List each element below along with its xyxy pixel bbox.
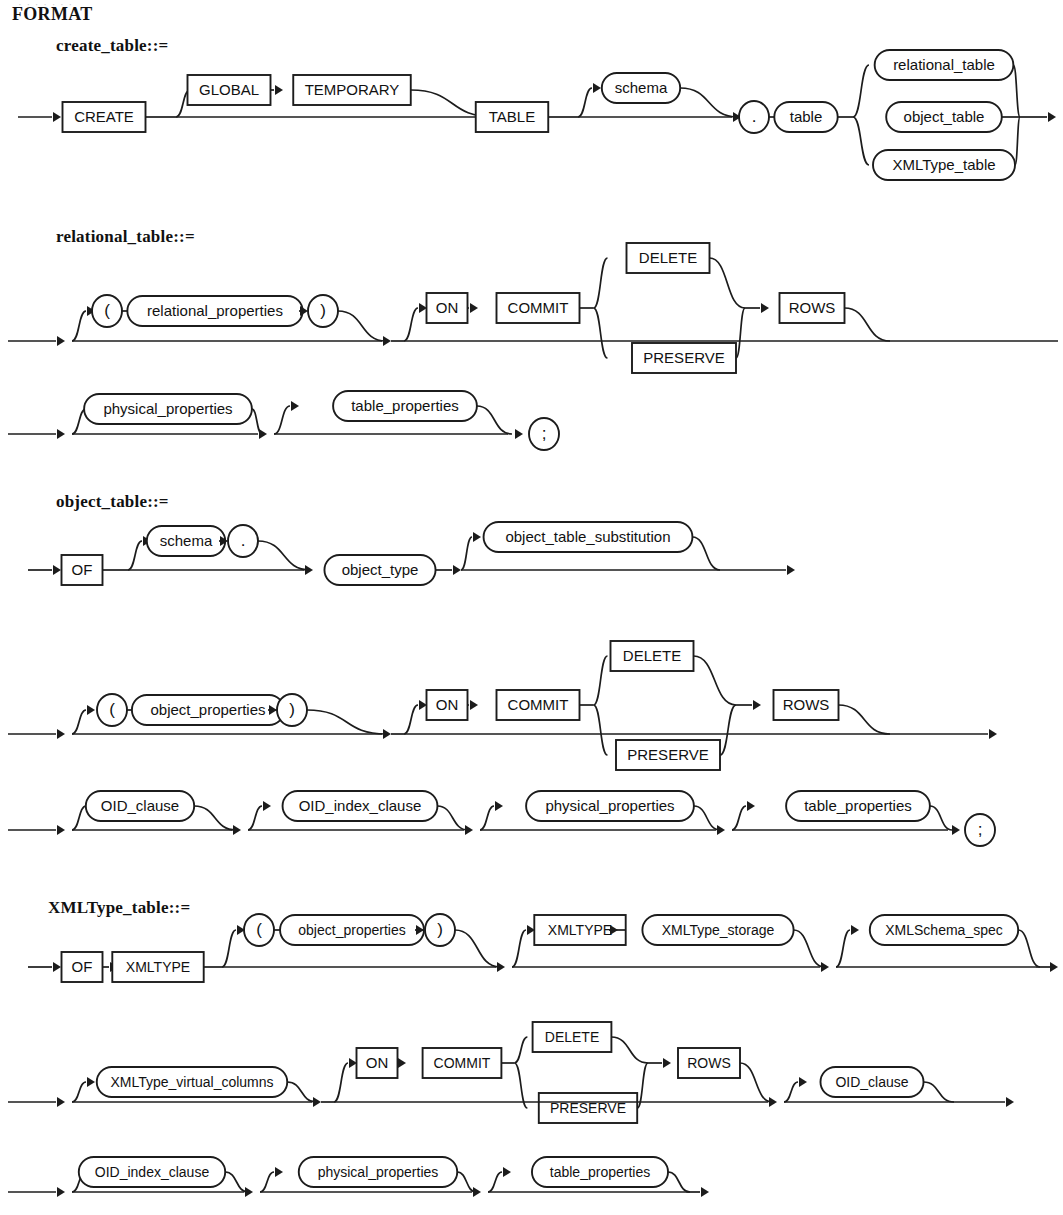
arrow-head-icon	[57, 336, 65, 346]
punctuation-label: ;	[978, 820, 983, 839]
arrow-head-icon	[383, 729, 391, 739]
arrow-head-icon	[245, 1187, 253, 1197]
nonterminal-label: relational_properties	[147, 302, 283, 319]
terminal-label: TABLE	[489, 108, 535, 125]
arrow-head-icon	[503, 1167, 511, 1177]
xml2-hook-up-on	[334, 1063, 348, 1102]
obj2-join-preserve	[720, 705, 736, 755]
terminal-label: DELETE	[623, 647, 681, 664]
nonterminal-label: relational_table	[893, 56, 995, 73]
obj2-join-delete	[694, 656, 737, 705]
obj-hook-down-subst	[692, 537, 720, 570]
arrow-head-icon	[263, 801, 271, 811]
arrow-head-icon	[300, 306, 308, 316]
xml2-join-delete	[611, 1037, 648, 1063]
nonterminal-label: XMLType_table	[892, 156, 995, 173]
arrow-head-icon	[53, 962, 61, 972]
terminal-label: ON	[436, 299, 459, 316]
terminal-label: COMMIT	[508, 696, 569, 713]
arrow-head-icon	[57, 429, 65, 439]
arrow-head-icon	[799, 1077, 807, 1087]
nonterminal-label: object_table_substitution	[505, 528, 670, 545]
rel2-node-semicolon: ;	[529, 418, 559, 450]
rel-node-open-paren: (	[92, 295, 122, 327]
xml2-node-rows: ROWS	[678, 1048, 740, 1078]
obj2-node-close-paren: )	[277, 694, 307, 726]
obj3-node-physical-properties: physical_properties	[526, 791, 694, 821]
arrow-head-icon	[495, 801, 503, 811]
obj3-hook-up-table	[732, 806, 746, 830]
terminal-label: COMMIT	[508, 299, 569, 316]
xml3-hook-down-oidix	[225, 1172, 248, 1192]
obj-hook-up-schema	[128, 541, 142, 570]
nonterminal-label: physical_properties	[103, 400, 232, 417]
arrow-head-icon	[747, 801, 755, 811]
rel-hook-up-delete	[594, 258, 608, 308]
arrow-head-icon	[473, 1187, 481, 1197]
obj2-node-open-paren: (	[97, 694, 127, 726]
xml1-hook-up-storage	[512, 930, 526, 967]
obj3-hook-up-physical	[480, 806, 494, 830]
rel-hook-down-paren	[338, 311, 386, 341]
terminal-label: GLOBAL	[199, 81, 259, 98]
rel2-node-table-properties: table_properties	[333, 391, 477, 421]
rel-node-close-paren: )	[308, 295, 338, 327]
arrow-head-icon	[821, 962, 829, 972]
terminal-label: ROWS	[783, 696, 830, 713]
xml2-hook-down-virtualcols	[287, 1082, 316, 1102]
wire-join-relational	[1013, 65, 1020, 117]
arrow-head-icon	[470, 700, 478, 710]
syntax-diagram-page: · · · · · · · FORMAT create_table::= rel…	[0, 0, 1063, 1215]
arrow-head-icon	[53, 112, 61, 122]
arrow-head-icon	[398, 1058, 406, 1068]
terminal-label: DELETE	[545, 1029, 599, 1045]
obj2-node-delete: DELETE	[611, 641, 694, 671]
rel-hook-up-paren	[72, 311, 86, 341]
xml3-node-physical-properties: physical_properties	[299, 1157, 457, 1187]
obj-hook-up-subst	[461, 537, 472, 570]
arrow-head-icon	[1006, 1097, 1014, 1107]
nonterminal-label: table	[790, 108, 823, 125]
obj2-hook-down-paren	[307, 710, 386, 734]
rel2-hook-down-table	[477, 406, 512, 434]
nonterminal-label: OID_clause	[835, 1074, 908, 1090]
nonterminal-label: schema	[615, 79, 668, 96]
obj2-hook-up-paren	[72, 710, 86, 734]
arrow-head-icon	[233, 825, 241, 835]
arrow-head-icon	[701, 1187, 709, 1197]
railroad-diagram-canvas: CREATEGLOBALTEMPORARYTABLEschema.tablere…	[0, 0, 1063, 1215]
arrow-head-icon	[989, 729, 997, 739]
xml3-hook-up-table	[488, 1172, 502, 1192]
arrow-head-icon	[259, 429, 267, 439]
xml1-node-close-paren: )	[425, 914, 455, 946]
rel-node-relational-properties: relational_properties	[127, 296, 302, 326]
obj-node-object-type: object_type	[324, 555, 435, 585]
arrow-head-icon	[663, 1058, 671, 1068]
terminal-label: DELETE	[639, 249, 697, 266]
nonterminal-label: physical_properties	[545, 797, 674, 814]
xml3-node-oid-index-clause: OID_index_clause	[79, 1157, 225, 1187]
node-temporary: TEMPORARY	[293, 75, 411, 105]
obj3-hook-down-table	[930, 806, 952, 830]
arrow-head-icon	[787, 565, 795, 575]
obj-node-dot: .	[228, 525, 258, 557]
arrow-head-icon	[57, 729, 65, 739]
xml1-hook-down-schemaspec	[1018, 930, 1040, 967]
xml2-hook-up-delete	[514, 1037, 527, 1063]
obj-node-of: OF	[62, 555, 103, 585]
obj3-hook-down-oid	[194, 806, 236, 830]
punctuation-label: (	[109, 700, 115, 719]
terminal-label: OF	[72, 561, 93, 578]
nonterminal-label: OID_clause	[101, 797, 179, 814]
wire-branch-up-schema	[578, 88, 592, 117]
arrow-head-icon	[470, 303, 478, 313]
xml1-hook-up-schemaspec	[836, 930, 850, 967]
obj2-node-on: ON	[427, 690, 468, 720]
obj2-node-preserve: PRESERVE	[616, 740, 720, 770]
rel-join-delete	[710, 258, 746, 308]
node-global: GLOBAL	[188, 75, 271, 105]
arrow-head-icon	[291, 401, 299, 411]
nonterminal-label: OID_index_clause	[299, 797, 422, 814]
punctuation-label: ;	[542, 424, 547, 443]
rel-node-rows: ROWS	[780, 293, 845, 323]
